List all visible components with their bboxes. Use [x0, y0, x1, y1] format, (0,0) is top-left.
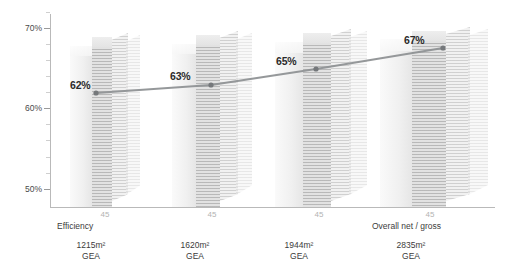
building-bar-2: 45 [172, 30, 258, 207]
column-unit-3: GEA [256, 251, 342, 262]
column-unit-2: GEA [152, 251, 238, 262]
building-base-label-4: 45 [398, 211, 462, 219]
column-unit-1: GEA [48, 251, 134, 262]
data-label-67: 67% [404, 35, 424, 46]
y-tick-label-60: 60% [2, 104, 42, 113]
y-minor-tick [46, 12, 50, 13]
column-unit-4: GEA [368, 251, 454, 262]
caption-efficiency: Efficiency [57, 222, 93, 231]
column-area-4: 2835m² [368, 240, 454, 251]
data-label-65: 65% [276, 56, 296, 67]
data-label-62: 62% [70, 80, 90, 91]
y-tick-label-70: 70% [2, 24, 42, 33]
building-bar-1: 45 [70, 30, 144, 207]
column-caption-2: 1620m² GEA [152, 240, 238, 262]
building-base-label-2: 45 [184, 211, 240, 219]
column-area-3: 1944m² [256, 240, 342, 251]
column-caption-4: 2835m² GEA [368, 240, 454, 262]
building-bar-4: 45 [380, 30, 492, 207]
column-area-2: 1620m² [152, 240, 238, 251]
building-base-label-1: 45 [80, 211, 130, 219]
caption-overall-net-gross: Overall net / gross [372, 222, 441, 231]
plot-area: 45 45 45 [50, 14, 495, 207]
column-caption-1: 1215m² GEA [48, 240, 134, 262]
x-axis-line [50, 207, 495, 208]
column-caption-3: 1944m² GEA [256, 240, 342, 262]
y-tick-label-50: 50% [2, 185, 42, 194]
chart-root: 70% 60% 50% 45 [0, 0, 510, 268]
column-area-1: 1215m² [48, 240, 134, 251]
building-base-label-3: 45 [289, 211, 349, 219]
data-label-63: 63% [170, 71, 190, 82]
